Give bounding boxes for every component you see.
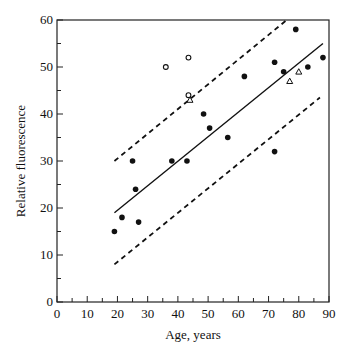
x-tick-label: 20 [111,306,124,321]
filled-circle-marker [112,229,118,235]
filled-circle-marker [305,64,311,70]
x-tick-label: 70 [262,306,275,321]
filled-circle-marker [136,219,142,225]
y-tick-label: 0 [47,294,54,309]
filled-circle-marker [320,55,326,61]
x-tick-label: 80 [292,306,305,321]
scatter-chart: 01020304050607080900102030405060 Age, ye… [0,0,351,354]
y-tick-label: 40 [40,106,53,121]
filled-circle-marker [133,186,139,192]
filled-circle-marker [169,158,175,164]
open-circle-marker [186,55,191,60]
filled-circle-marker [119,215,125,221]
open-triangle-marker [287,78,293,83]
y-tick-label: 20 [40,200,53,215]
filled-circle-marker [272,60,278,66]
x-tick-label: 90 [323,306,336,321]
x-tick-label: 50 [202,306,215,321]
filled-circle-marker [293,27,299,33]
axis-ticks [57,20,329,302]
x-tick-label: 0 [54,306,61,321]
x-tick-label: 60 [232,306,245,321]
plot-frame [57,20,329,302]
y-axis-label: Relative fluorescence [13,105,28,217]
y-tick-label: 10 [40,247,53,262]
y-tick-label: 60 [40,12,53,27]
filled-circle-marker [207,125,213,131]
filled-circle-marker [242,74,248,80]
confidence-bound-line [114,98,320,265]
x-tick-label: 30 [141,306,154,321]
open-triangle-marker [296,69,302,74]
filled-circle-marker [130,158,136,164]
filled-circle-marker [184,158,190,164]
confidence-bound-line [114,20,286,161]
data-points [112,27,326,235]
fit-lines [114,20,323,264]
filled-circle-marker [272,149,278,155]
regression-line [114,44,323,213]
filled-circle-marker [281,69,287,75]
y-tick-label: 50 [40,59,53,74]
filled-circle-marker [201,111,207,117]
x-tick-label: 40 [171,306,184,321]
x-axis-label: Age, years [165,327,221,342]
y-tick-label: 30 [40,153,53,168]
filled-circle-marker [225,135,231,141]
open-circle-marker [163,65,168,70]
x-tick-label: 10 [81,306,94,321]
